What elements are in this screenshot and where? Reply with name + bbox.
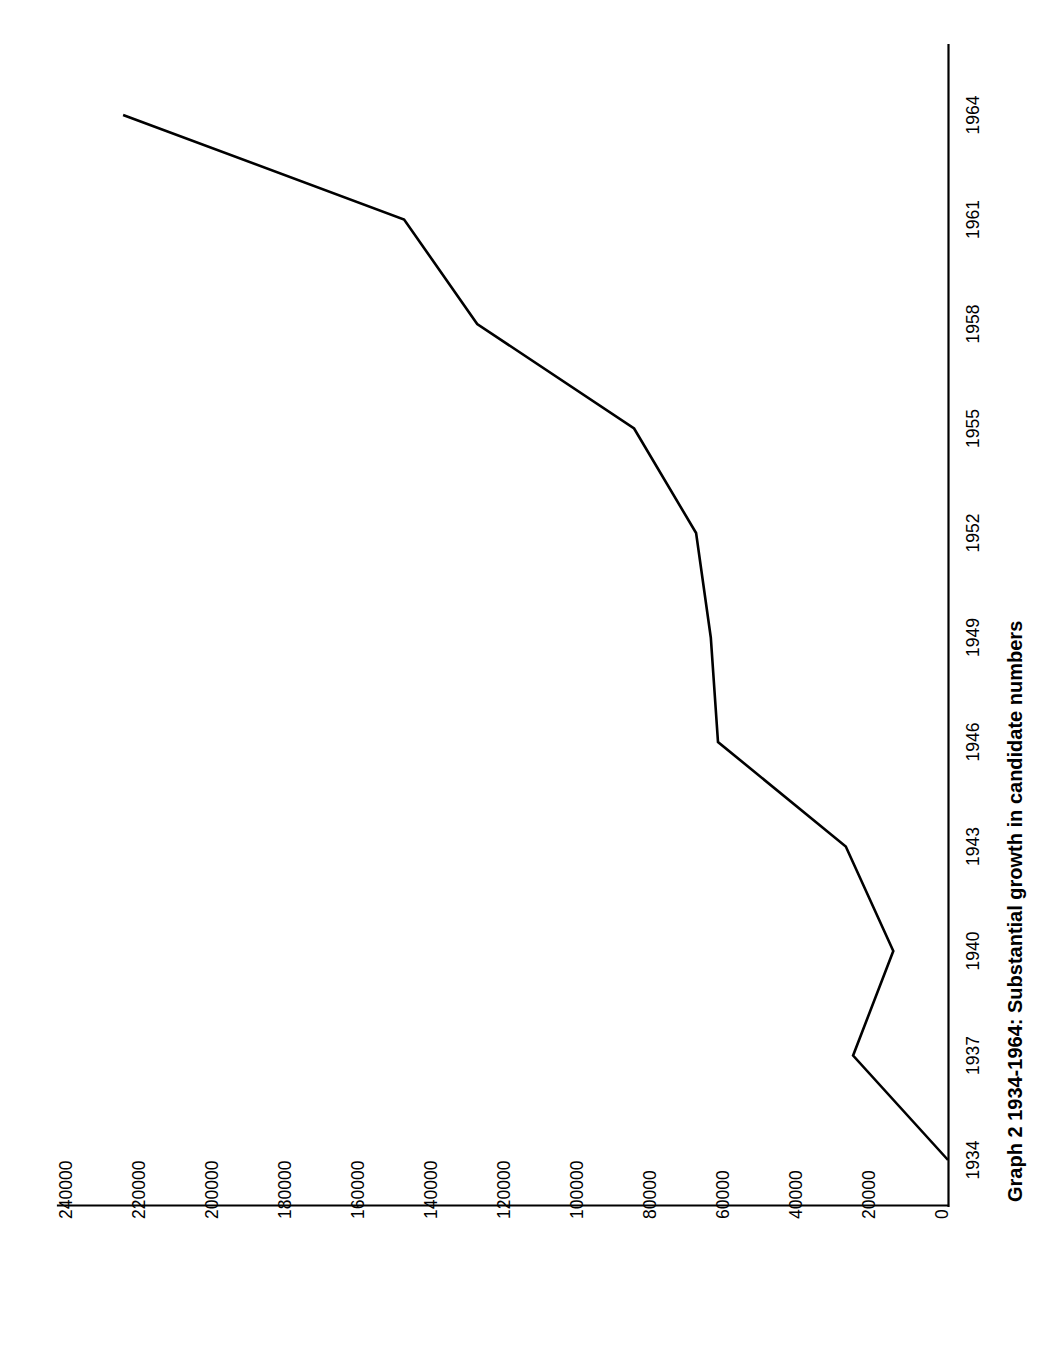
value-tick-label: 60000: [713, 1170, 733, 1219]
value-axis-tick-labels: 0200004000060000800001000001200001400001…: [56, 1160, 952, 1219]
year-tick-label: 1946: [963, 723, 983, 762]
value-tick-label: 180000: [275, 1160, 295, 1219]
value-tick-label: 0: [932, 1209, 952, 1219]
value-tick-label: 220000: [129, 1160, 149, 1219]
value-tick-label: 200000: [202, 1160, 222, 1219]
year-tick-label: 1964: [963, 95, 983, 134]
year-tick-label: 1961: [963, 200, 983, 239]
year-tick-label: 1934: [963, 1140, 983, 1179]
value-tick-label: 100000: [567, 1160, 587, 1219]
year-axis-tick-labels: 1934193719401943194619491952195519581961…: [963, 95, 983, 1179]
chart-title: Graph 2 1934-1964: Substantial growth in…: [1004, 621, 1026, 1202]
year-tick-label: 1940: [963, 931, 983, 970]
year-tick-label: 1952: [963, 514, 983, 553]
series-line-candidate-numbers: [123, 115, 948, 1160]
value-tick-label: 160000: [348, 1160, 368, 1219]
value-tick-label: 80000: [640, 1170, 660, 1219]
year-tick-label: 1949: [963, 618, 983, 657]
chart-page: 0200004000060000800001000001200001400001…: [0, 0, 1053, 1350]
value-tick-label: 140000: [421, 1160, 441, 1219]
value-tick-label: 40000: [786, 1170, 806, 1219]
year-tick-label: 1955: [963, 409, 983, 448]
line-chart: 0200004000060000800001000001200001400001…: [0, 0, 1053, 1350]
year-tick-label: 1958: [963, 305, 983, 344]
value-tick-label: 240000: [56, 1160, 76, 1219]
value-tick-label: 20000: [859, 1170, 879, 1219]
chart-title-group: Graph 2 1934-1964: Substantial growth in…: [1004, 621, 1026, 1202]
year-tick-label: 1943: [963, 827, 983, 866]
value-tick-label: 120000: [494, 1160, 514, 1219]
plot-area: 0200004000060000800001000001200001400001…: [56, 45, 983, 1219]
year-tick-label: 1937: [963, 1036, 983, 1075]
